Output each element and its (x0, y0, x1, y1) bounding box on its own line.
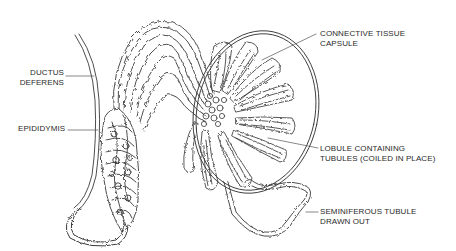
efferent-ductules (113, 21, 214, 130)
testis-capsule (178, 19, 333, 205)
label-epididymis: EPIDIDYMIS (18, 124, 65, 134)
testis-diagram: DUCTUS DEFERENS EPIDIDYMIS CONNECTIVE TI… (0, 0, 456, 251)
label-seminiferous-tubule: SEMINIFEROUS TUBULE DRAWN OUT (320, 207, 416, 227)
label-lobule: LOBULE CONTAINING TUBULES (COILED IN PLA… (320, 144, 435, 164)
label-ductus-deferens: DUCTUS DEFERENS (18, 68, 64, 88)
seminiferous-tubule-drawn-out (224, 179, 311, 236)
label-connective-tissue-capsule: CONNECTIVE TISSUE CAPSULE (320, 29, 405, 49)
lobules (184, 42, 295, 190)
ductus-deferens (74, 34, 100, 211)
epididymis-body (101, 108, 139, 232)
leader-lobule (268, 138, 318, 148)
